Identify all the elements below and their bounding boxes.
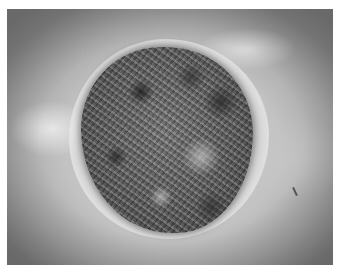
photo-vignette [7, 9, 333, 265]
clinical-photo [7, 9, 333, 265]
